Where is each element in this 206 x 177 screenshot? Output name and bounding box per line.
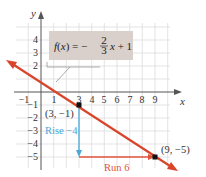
line-arrow-right-icon bbox=[167, 162, 178, 171]
rise-label: Rise −4 bbox=[45, 125, 78, 136]
equation-frac-den: 3 bbox=[101, 44, 107, 56]
svg-text:−3: −3 bbox=[27, 125, 38, 136]
x-axis-label: x bbox=[179, 95, 185, 107]
point-9-neg5 bbox=[153, 155, 158, 160]
svg-text:8: 8 bbox=[140, 94, 145, 105]
svg-text:−2: −2 bbox=[27, 112, 38, 123]
svg-text:6: 6 bbox=[115, 94, 120, 105]
graph: x y −1 1 3 4 5 6 7 8 9 4 3 2 −1 −2 −3 −4… bbox=[0, 0, 206, 177]
point-3-neg1 bbox=[77, 103, 82, 108]
svg-text:−1: −1 bbox=[27, 99, 38, 110]
svg-text:−5: −5 bbox=[27, 151, 38, 162]
svg-text:2: 2 bbox=[33, 60, 38, 71]
rise-arrow-icon bbox=[76, 150, 82, 157]
y-axis-arrow-icon bbox=[38, 11, 44, 19]
point-label-9-neg5: (9, −5) bbox=[161, 144, 190, 156]
run-annotation: Run 6 bbox=[79, 154, 155, 173]
svg-text:4: 4 bbox=[33, 34, 38, 45]
equation-lhs: f(x) = − bbox=[54, 40, 87, 53]
svg-text:5: 5 bbox=[102, 94, 107, 105]
svg-text:7: 7 bbox=[128, 94, 133, 105]
point-label-3-neg1: (3, −1) bbox=[45, 108, 74, 120]
svg-text:9: 9 bbox=[153, 94, 158, 105]
svg-text:−4: −4 bbox=[27, 138, 38, 149]
equation-rhs: x + 1 bbox=[109, 40, 132, 52]
x-tick-labels: −1 1 3 4 5 6 7 8 9 bbox=[19, 94, 158, 105]
svg-text:1: 1 bbox=[52, 94, 57, 105]
equation-callout: f(x) = − 2 3 x + 1 bbox=[47, 31, 133, 82]
line-arrow-left-icon bbox=[6, 60, 17, 69]
svg-text:3: 3 bbox=[33, 47, 38, 58]
run-label: Run 6 bbox=[104, 162, 129, 173]
y-axis-label: y bbox=[30, 7, 36, 19]
svg-text:4: 4 bbox=[90, 94, 95, 105]
